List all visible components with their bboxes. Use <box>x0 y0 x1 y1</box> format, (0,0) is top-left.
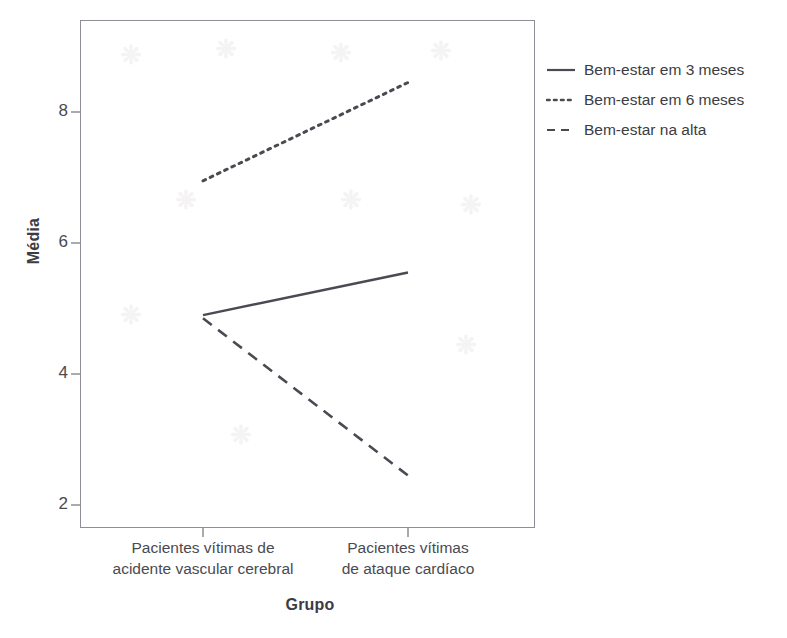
legend-label: Bem-estar na alta <box>584 121 706 139</box>
chart-legend: Bem-estar em 3 meses Bem-estar em 6 mese… <box>546 55 784 145</box>
interaction-plot-figure: ❋ ❋ ❋ ❋ ❋ ❋ ❋ ❋ ❋ ❋ Média 8 6 4 2 Pacien… <box>0 0 787 638</box>
y-tick-label-8: 8 <box>34 101 68 121</box>
y-tick-label-2: 2 <box>34 494 68 514</box>
y-tick-marks <box>71 112 80 505</box>
legend-label: Bem-estar em 3 meses <box>584 61 744 79</box>
x-axis-title: Grupo <box>0 596 620 614</box>
legend-item-bem-estar-na-alta[interactable]: Bem-estar na alta <box>546 115 784 145</box>
legend-line-dotted-icon <box>546 93 576 107</box>
y-tick-label-6: 6 <box>34 232 68 252</box>
x-tick-label-group-1: Pacientes vítimas de acidente vascular c… <box>73 537 333 579</box>
x-tick-label-group-2: Pacientes vítimas de ataque cardíaco <box>318 537 498 579</box>
legend-line-solid-icon <box>546 63 576 77</box>
y-tick-label-4: 4 <box>34 363 68 383</box>
legend-label: Bem-estar em 6 meses <box>584 91 744 109</box>
legend-item-bem-estar-6-meses[interactable]: Bem-estar em 6 meses <box>546 85 784 115</box>
plot-area <box>80 20 535 528</box>
legend-item-bem-estar-3-meses[interactable]: Bem-estar em 3 meses <box>546 55 784 85</box>
legend-line-dashed-icon <box>546 123 576 137</box>
x-tick-marks <box>203 528 408 537</box>
